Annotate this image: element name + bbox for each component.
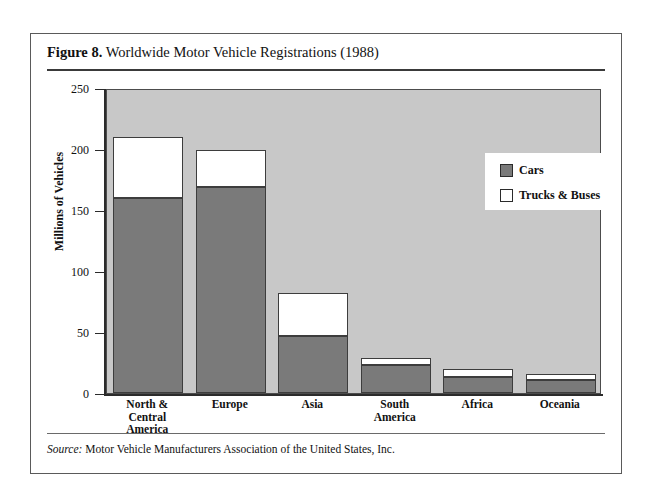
figure-caption: Figure 8. Worldwide Motor Vehicle Regist…: [47, 43, 607, 61]
bar-segment-cars[interactable]: [526, 380, 596, 393]
bar-segment-trucks-buses[interactable]: [278, 293, 348, 336]
legend-swatch: [500, 189, 513, 202]
bar-stack[interactable]: [278, 293, 348, 393]
bar-segment-cars[interactable]: [113, 198, 183, 393]
bar-segment-cars[interactable]: [361, 365, 431, 393]
legend-label: Trucks & Buses: [519, 188, 600, 203]
bar-stack[interactable]: [443, 369, 513, 393]
y-axis-tick: [95, 211, 104, 212]
y-axis-tick: [95, 333, 104, 334]
plot-area: CarsTrucks & Buses: [106, 89, 601, 394]
caption-divider: [47, 69, 605, 71]
chart-legend: CarsTrucks & Buses: [485, 153, 610, 210]
bar-segment-trucks-buses[interactable]: [443, 369, 513, 378]
y-axis-tick-label: 50: [45, 327, 89, 339]
bar-segment-trucks-buses[interactable]: [113, 137, 183, 198]
source-label: Source:: [47, 443, 82, 455]
bar-stack[interactable]: [196, 150, 266, 393]
legend-label: Cars: [519, 163, 544, 178]
y-axis-title: Millions of Vehicles: [52, 127, 67, 277]
bar-segment-trucks-buses[interactable]: [361, 358, 431, 365]
x-axis-category-label-line: Central: [97, 411, 197, 424]
x-axis-category-label-line: Oceania: [510, 398, 610, 411]
y-axis-tick: [95, 272, 104, 273]
y-axis-tick-label: 0: [45, 388, 89, 400]
y-axis-tick: [95, 150, 104, 151]
source-divider: [47, 433, 605, 434]
bar-segment-cars[interactable]: [443, 377, 513, 393]
bar-segment-trucks-buses[interactable]: [196, 150, 266, 187]
y-axis-tick: [95, 89, 104, 90]
bar-segment-cars[interactable]: [196, 187, 266, 393]
legend-swatch: [500, 164, 513, 177]
y-axis-tick: [95, 394, 104, 395]
source-note: Source: Motor Vehicle Manufacturers Asso…: [47, 443, 395, 455]
figure-frame: Figure 8. Worldwide Motor Vehicle Regist…: [30, 33, 622, 474]
bar-stack[interactable]: [361, 358, 431, 393]
bar-segment-cars[interactable]: [278, 336, 348, 393]
bar-stack[interactable]: [526, 373, 596, 393]
x-axis-line: [104, 394, 603, 396]
y-axis-line: [104, 89, 106, 395]
source-text: Motor Vehicle Manufacturers Association …: [85, 443, 395, 455]
figure-caption-text: Worldwide Motor Vehicle Registrations (1…: [106, 44, 379, 60]
x-axis-category-label-line: America: [345, 411, 445, 424]
bar-stack[interactable]: [113, 137, 183, 393]
x-axis-category-label: Oceania: [510, 398, 610, 411]
y-axis-tick-label: 250: [45, 83, 89, 95]
figure-caption-label: Figure 8.: [47, 44, 102, 60]
